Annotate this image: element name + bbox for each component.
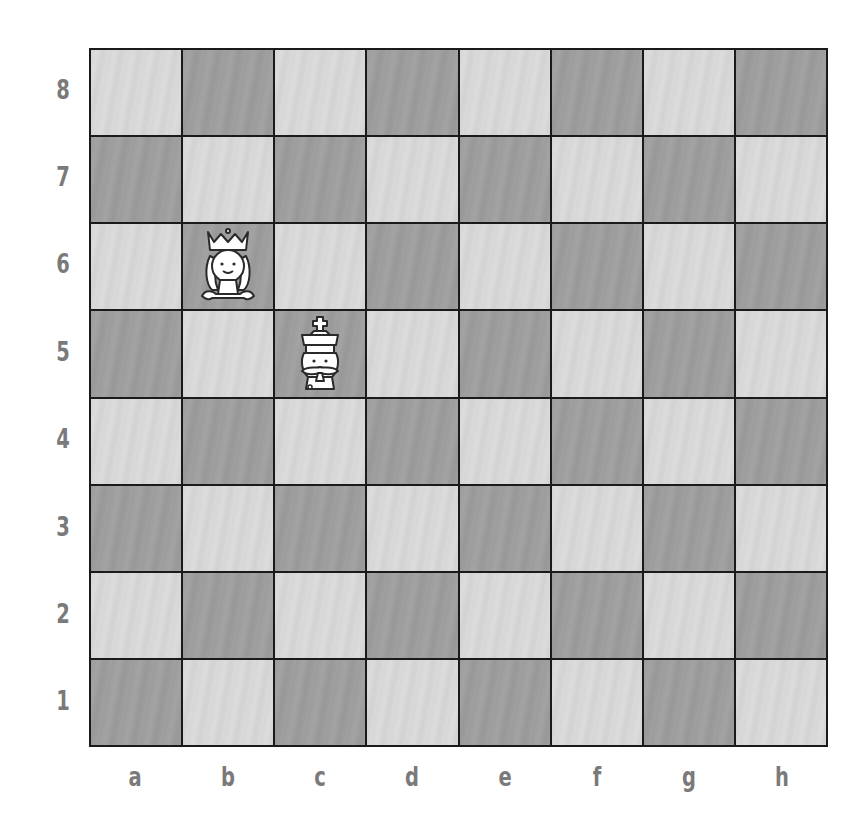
square-e4[interactable] (460, 399, 550, 484)
square-a2[interactable] (91, 573, 181, 658)
square-f7[interactable] (552, 137, 642, 222)
square-c8[interactable] (275, 50, 365, 135)
file-label-d: d (401, 762, 424, 792)
cartoon-queen-icon (196, 228, 260, 306)
square-g3[interactable] (644, 486, 734, 571)
square-a5[interactable] (91, 311, 181, 396)
cartoon-king-icon (288, 315, 352, 393)
square-e8[interactable] (460, 50, 550, 135)
square-a3[interactable] (91, 486, 181, 571)
square-b2[interactable] (183, 573, 273, 658)
square-h2[interactable] (736, 573, 826, 658)
square-g8[interactable] (644, 50, 734, 135)
square-b1[interactable] (183, 660, 273, 745)
square-f6[interactable] (552, 224, 642, 309)
file-label-b: b (216, 762, 239, 792)
square-e6[interactable] (460, 224, 550, 309)
square-c1[interactable] (275, 660, 365, 745)
square-g5[interactable] (644, 311, 734, 396)
square-h8[interactable] (736, 50, 826, 135)
file-label-c: c (309, 762, 332, 792)
square-b4[interactable] (183, 399, 273, 484)
square-f5[interactable] (552, 311, 642, 396)
square-h6[interactable] (736, 224, 826, 309)
file-label-a: a (124, 762, 147, 792)
rank-label-3: 3 (52, 512, 75, 542)
square-f8[interactable] (552, 50, 642, 135)
square-c5[interactable] (275, 311, 365, 396)
square-a6[interactable] (91, 224, 181, 309)
square-g1[interactable] (644, 660, 734, 745)
square-d2[interactable] (367, 573, 457, 658)
square-e3[interactable] (460, 486, 550, 571)
rank-label-7: 7 (52, 162, 75, 192)
square-f3[interactable] (552, 486, 642, 571)
square-c3[interactable] (275, 486, 365, 571)
square-e2[interactable] (460, 573, 550, 658)
square-h5[interactable] (736, 311, 826, 396)
square-g7[interactable] (644, 137, 734, 222)
file-label-f: f (586, 762, 609, 792)
square-d8[interactable] (367, 50, 457, 135)
square-g4[interactable] (644, 399, 734, 484)
square-b7[interactable] (183, 137, 273, 222)
file-label-g: g (678, 762, 701, 792)
square-g6[interactable] (644, 224, 734, 309)
square-e5[interactable] (460, 311, 550, 396)
square-d5[interactable] (367, 311, 457, 396)
square-c2[interactable] (275, 573, 365, 658)
chess-board (89, 48, 828, 747)
square-h4[interactable] (736, 399, 826, 484)
square-h3[interactable] (736, 486, 826, 571)
square-c6[interactable] (275, 224, 365, 309)
square-a1[interactable] (91, 660, 181, 745)
square-d4[interactable] (367, 399, 457, 484)
white-queen-piece[interactable] (196, 228, 260, 306)
rank-label-4: 4 (52, 424, 75, 454)
square-h7[interactable] (736, 137, 826, 222)
square-f1[interactable] (552, 660, 642, 745)
square-h1[interactable] (736, 660, 826, 745)
square-d6[interactable] (367, 224, 457, 309)
square-d1[interactable] (367, 660, 457, 745)
rank-label-5: 5 (52, 337, 75, 367)
white-king-piece[interactable] (288, 315, 352, 393)
rank-label-8: 8 (52, 75, 75, 105)
square-b5[interactable] (183, 311, 273, 396)
square-c4[interactable] (275, 399, 365, 484)
square-a4[interactable] (91, 399, 181, 484)
rank-label-2: 2 (52, 599, 75, 629)
square-b6[interactable] (183, 224, 273, 309)
square-d3[interactable] (367, 486, 457, 571)
square-e7[interactable] (460, 137, 550, 222)
square-d7[interactable] (367, 137, 457, 222)
file-label-h: h (771, 762, 794, 792)
square-a7[interactable] (91, 137, 181, 222)
rank-label-6: 6 (52, 249, 75, 279)
square-b3[interactable] (183, 486, 273, 571)
square-a8[interactable] (91, 50, 181, 135)
square-c7[interactable] (275, 137, 365, 222)
file-label-e: e (493, 762, 516, 792)
rank-label-1: 1 (52, 686, 75, 716)
square-g2[interactable] (644, 573, 734, 658)
square-e1[interactable] (460, 660, 550, 745)
square-f2[interactable] (552, 573, 642, 658)
square-f4[interactable] (552, 399, 642, 484)
square-b8[interactable] (183, 50, 273, 135)
